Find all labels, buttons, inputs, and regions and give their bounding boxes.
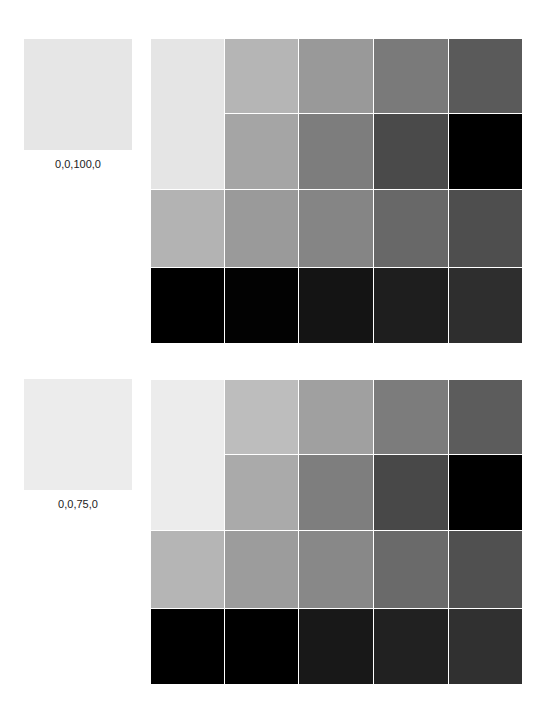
grid-cell bbox=[299, 190, 373, 267]
grid-cell bbox=[374, 380, 448, 454]
grid-cell bbox=[449, 455, 522, 530]
swatch-2 bbox=[24, 379, 132, 490]
grid-cell bbox=[374, 268, 448, 343]
grid-cell bbox=[374, 455, 448, 530]
grid-cell bbox=[449, 531, 522, 608]
grid-cell bbox=[449, 268, 522, 343]
grid-cell bbox=[374, 531, 448, 608]
grid-cell bbox=[374, 39, 448, 113]
grid-cell bbox=[225, 609, 298, 684]
grid-cell-large bbox=[151, 380, 224, 530]
grid-cell bbox=[151, 190, 224, 267]
grid-cell bbox=[151, 531, 224, 608]
grid-cell bbox=[299, 268, 373, 343]
grid-cell bbox=[225, 114, 298, 189]
grid-cell bbox=[151, 609, 224, 684]
grid-cell bbox=[225, 268, 298, 343]
swatch-label-1: 0,0,100,0 bbox=[24, 158, 132, 170]
grid-cell bbox=[449, 609, 522, 684]
grid-cell bbox=[225, 455, 298, 530]
grid-cell bbox=[299, 455, 373, 530]
grid-cell bbox=[225, 190, 298, 267]
swatch-1 bbox=[24, 39, 132, 150]
grid-cell bbox=[299, 380, 373, 454]
swatch-label-2: 0,0,75,0 bbox=[24, 498, 132, 510]
grid-cell bbox=[374, 190, 448, 267]
color-grid-2 bbox=[151, 380, 518, 681]
color-grid-1 bbox=[151, 39, 518, 340]
grid-cell bbox=[374, 609, 448, 684]
grid-cell bbox=[225, 39, 298, 113]
grid-cell bbox=[299, 609, 373, 684]
grid-cell bbox=[449, 380, 522, 454]
grid-cell bbox=[299, 531, 373, 608]
grid-cell bbox=[299, 39, 373, 113]
grid-cell bbox=[151, 268, 224, 343]
grid-cell-large bbox=[151, 39, 224, 189]
grid-cell bbox=[449, 190, 522, 267]
grid-cell bbox=[374, 114, 448, 189]
grid-cell bbox=[449, 39, 522, 113]
grid-cell bbox=[225, 380, 298, 454]
grid-cell bbox=[225, 531, 298, 608]
grid-cell bbox=[449, 114, 522, 189]
grid-cell bbox=[299, 114, 373, 189]
